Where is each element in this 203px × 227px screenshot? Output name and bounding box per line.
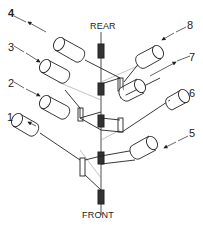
callout-label-3: 3 [8, 42, 14, 53]
cylinder-8 [136, 43, 166, 68]
cylinder-2 [37, 93, 70, 119]
callout-label-1: 1 [7, 112, 13, 123]
front-label: FRONT [82, 211, 114, 220]
callout-label-7: 7 [189, 52, 195, 63]
cylinder-3 [37, 57, 70, 83]
cylinder-6 [166, 87, 192, 110]
linkages [40, 60, 170, 190]
callout-label-6: 6 [189, 88, 195, 99]
callout-arrows [14, 16, 190, 148]
cylinder-1 [9, 111, 39, 136]
callout-label-4: 4 [8, 8, 14, 19]
callout-label-2: 2 [8, 78, 14, 89]
cylinder-5 [130, 134, 160, 159]
callout-label-8: 8 [187, 20, 193, 31]
callout-label-5: 5 [189, 128, 195, 139]
rear-label: REAR [90, 22, 116, 31]
diagram-canvas [0, 0, 203, 227]
cylinder-4 [51, 35, 85, 64]
